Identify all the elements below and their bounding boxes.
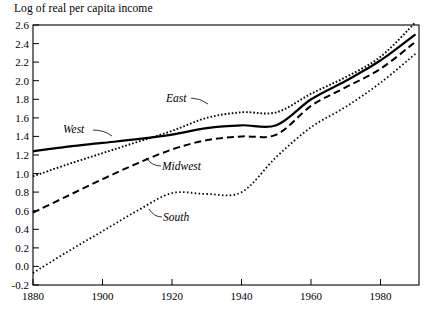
series-label-west: West [63, 123, 85, 135]
x-axis-tick-labels: 1880 1900 1920 1940 1960 1980 [22, 290, 392, 302]
series-line-south [33, 54, 416, 273]
series-layer [33, 22, 416, 273]
x-tick-label: 1940 [231, 290, 254, 302]
x-tick-label: 1980 [370, 290, 393, 302]
leader-west [93, 130, 112, 136]
x-tick-label: 1960 [300, 290, 323, 302]
y-tick-label: 1.8 [15, 93, 29, 105]
y-tick-label: 0.4 [15, 223, 29, 235]
y-tick-label: 1.2 [15, 149, 29, 161]
y-tick-label: 0.6 [15, 205, 29, 217]
x-axis-ticks [33, 279, 381, 285]
series-line-east [33, 22, 416, 176]
y-tick-label: 0.8 [15, 186, 29, 198]
x-tick-label: 1880 [22, 290, 45, 302]
annotation-leaders [93, 98, 208, 217]
y-tick-label: 0.0 [15, 260, 29, 272]
y-tick-label: 1.4 [15, 130, 29, 142]
y-tick-label: 2.4 [15, 38, 29, 50]
y-tick-label: 2.0 [15, 75, 29, 87]
y-tick-label: 1.6 [15, 112, 29, 124]
x-tick-label: 1900 [92, 290, 115, 302]
series-label-midwest: Midwest [161, 160, 202, 172]
series-line-west [33, 34, 416, 151]
series-annotations: West East Midwest South [63, 92, 202, 223]
leader-south [149, 209, 162, 217]
line-chart-plot: 2.6 2.4 2.2 2.0 1.8 1.6 1.4 1.2 1.0 0.8 … [0, 0, 433, 313]
y-axis-tick-labels: 2.6 2.4 2.2 2.0 1.8 1.6 1.4 1.2 1.0 0.8 … [12, 19, 30, 291]
plot-frame [33, 25, 419, 285]
y-tick-label: 2.2 [15, 56, 29, 68]
series-label-east: East [165, 92, 187, 104]
y-tick-label: 2.6 [15, 19, 29, 31]
x-tick-label: 1920 [161, 290, 184, 302]
series-label-south: South [163, 211, 189, 223]
figure-container: Log of real per capita income [0, 0, 433, 313]
y-tick-label: 0.2 [15, 242, 29, 254]
y-axis-ticks [33, 25, 39, 285]
leader-east [191, 98, 208, 104]
y-tick-label: 1.0 [15, 168, 29, 180]
